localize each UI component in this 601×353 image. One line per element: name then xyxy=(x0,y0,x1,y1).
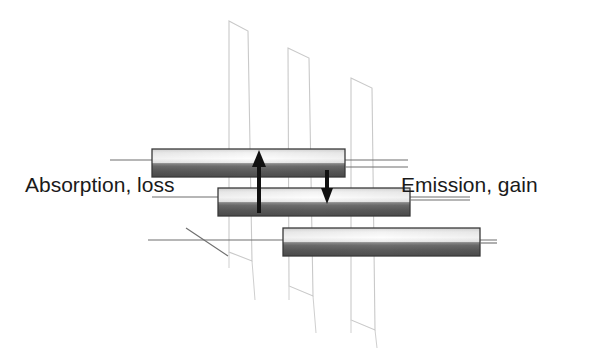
guide-line-6 xyxy=(375,330,377,348)
absorption-label: Absorption, loss xyxy=(25,174,174,195)
level-line-diagonal xyxy=(186,228,228,256)
energy-bar-lower xyxy=(283,228,480,256)
guide-line-4 xyxy=(313,296,316,333)
plane-left xyxy=(229,21,252,261)
plane-guide-lines xyxy=(229,252,377,348)
guide-line-2 xyxy=(252,261,255,300)
energy-bar-middle xyxy=(218,188,410,216)
diagram-canvas: Absorption, loss Emission, gain xyxy=(0,0,601,353)
energy-bar-upper xyxy=(152,149,345,177)
emission-label: Emission, gain xyxy=(401,174,538,195)
